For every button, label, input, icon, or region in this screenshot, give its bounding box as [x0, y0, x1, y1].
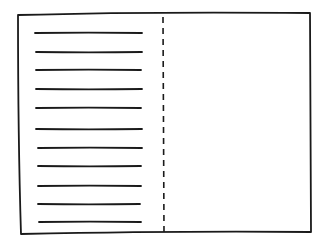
right-panel	[168, 18, 306, 228]
dashed-divider	[163, 17, 164, 232]
outer-frame	[18, 13, 311, 234]
wireframe-sketch	[0, 0, 328, 248]
left-text-lines	[35, 33, 142, 222]
